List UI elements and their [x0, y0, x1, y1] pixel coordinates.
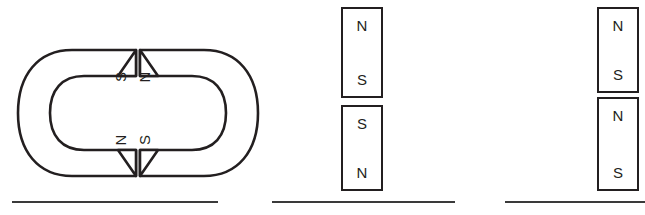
bar-magnet-bottom-middle-bottom-pole-label: N [343, 165, 381, 180]
horseshoe-right-upper-pole-label: N [136, 72, 153, 83]
horseshoe-left-body [18, 50, 136, 176]
magnet-diagram-canvas: S N N S N S S N N S [0, 0, 645, 215]
horseshoe-magnet-left: S N [18, 50, 136, 176]
panel-bar-pair-attract: N S N S [470, 0, 645, 215]
panel-horseshoe-pair: S N N S [0, 0, 270, 215]
bar-magnet-top-middle-bottom-pole-label: S [343, 72, 381, 87]
horseshoe-left-upper-pole-label: S [112, 72, 129, 82]
horseshoe-right-body [140, 50, 258, 176]
bar-magnet-bottom-middle-top-pole-label: S [343, 116, 381, 131]
bar-magnet-top-right-top-pole-label: N [599, 18, 637, 33]
bar-magnet-top-right-bottom-pole-label: S [599, 67, 637, 82]
panel-bar-pair-repel: N S S N [270, 0, 470, 215]
bar-magnet-bottom-middle: S N [341, 105, 383, 191]
answer-line-horseshoe-pair[interactable] [12, 201, 218, 203]
bar-magnet-top-middle: N S [341, 7, 383, 98]
bar-magnet-bottom-right: N S [597, 97, 639, 191]
bar-magnet-top-right: N S [597, 7, 639, 93]
horseshoe-magnet-right: N S [136, 50, 258, 176]
bar-magnet-top-middle-top-pole-label: N [343, 18, 381, 33]
answer-line-bar-pair-repel[interactable] [272, 201, 455, 203]
horseshoe-right-lower-pole-label: S [136, 135, 153, 145]
horseshoe-pair-graphic: S N N S [0, 0, 270, 215]
horseshoe-left-lower-pole-label: N [112, 135, 129, 146]
bar-magnet-bottom-right-bottom-pole-label: S [599, 165, 637, 180]
answer-line-bar-pair-attract[interactable] [505, 201, 645, 203]
bar-magnet-bottom-right-top-pole-label: N [599, 108, 637, 123]
